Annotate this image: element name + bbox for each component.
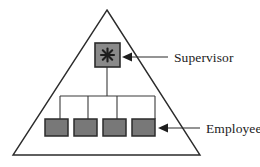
employees-callout-arrowhead-icon	[158, 124, 168, 133]
employee-node-2[interactable]	[74, 119, 97, 136]
asterisk-starburst-icon	[101, 49, 114, 62]
employee-node-3[interactable]	[103, 119, 126, 136]
supervisor-label: Supervisor	[174, 50, 234, 65]
employee-node-4[interactable]	[132, 119, 155, 136]
employee-node-1[interactable]	[45, 119, 68, 136]
supervisor-callout-arrowhead-icon	[122, 53, 132, 62]
organization-triangle-diagram: Supervisor Employees	[0, 0, 260, 167]
diagram-canvas: Supervisor Employees	[0, 0, 260, 167]
employees-label: Employees	[206, 121, 260, 136]
